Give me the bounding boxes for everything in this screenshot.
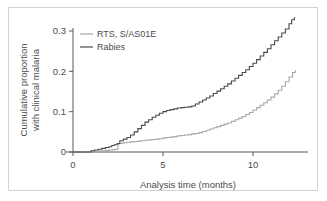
y-axis-tick-labels: 00.10.20.3 — [53, 25, 66, 157]
series-line-rts-s-as01e — [73, 70, 295, 152]
x-axis-title: Analysis time (months) — [140, 179, 236, 190]
chart-legend: RTS, S/AS01ERabies — [80, 29, 156, 52]
x-tick-label: 10 — [248, 159, 259, 170]
x-axis-tick-labels: 0510 — [70, 159, 258, 170]
figure-container: 00.10.20.3 0510 RTS, S/AS01ERabies Analy… — [0, 0, 327, 201]
y-tick-label: 0 — [61, 146, 66, 157]
x-tick-label: 0 — [70, 159, 75, 170]
y-axis-title-line1: Cumulative proportion — [18, 44, 29, 137]
legend-label: Rabies — [97, 42, 126, 52]
y-tick-label: 0.3 — [53, 25, 66, 36]
y-tick-label: 0.2 — [53, 66, 66, 77]
y-axis-title-line2: with clinical malaria — [30, 48, 41, 132]
y-tick-label: 0.1 — [53, 106, 66, 117]
x-axis-ticks — [73, 152, 253, 156]
chart-canvas: 00.10.20.3 0510 RTS, S/AS01ERabies Analy… — [0, 0, 327, 201]
x-tick-label: 5 — [160, 159, 165, 170]
y-axis-ticks — [69, 31, 73, 152]
legend-label: RTS, S/AS01E — [97, 29, 156, 39]
